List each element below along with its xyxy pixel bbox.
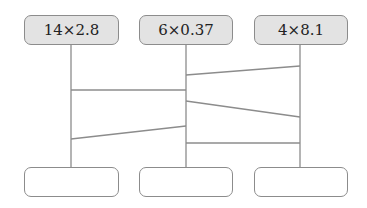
expression-label: 14×2.8 [44, 21, 100, 39]
top-box-middle: 6×0.37 [139, 15, 233, 45]
answer-box-left[interactable] [24, 167, 119, 197]
top-box-left: 14×2.8 [24, 15, 119, 45]
rung [71, 126, 186, 139]
rung [186, 101, 300, 117]
expression-label: 4×8.1 [278, 21, 324, 39]
expression-label: 6×0.37 [158, 21, 214, 39]
answer-box-right[interactable] [254, 167, 348, 197]
top-box-right: 4×8.1 [254, 15, 348, 45]
rung [186, 66, 300, 75]
answer-box-middle[interactable] [139, 167, 233, 197]
